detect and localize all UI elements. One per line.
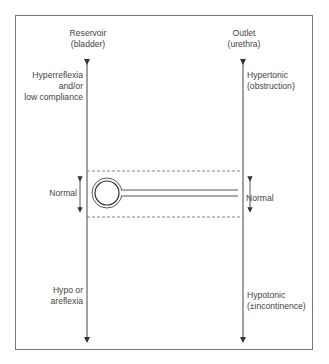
outlet-bottom-label: Hypotonic (±incontinence) <box>247 290 306 312</box>
outlet-top-label: Hypertonic (obstruction) <box>247 70 295 92</box>
bladder-urethra-icon <box>92 178 238 208</box>
reservoir-normal-label: Normal <box>30 188 77 199</box>
outlet-title: Outlet (urethra) <box>222 28 266 50</box>
reservoir-top-label: Hyperreflexia and/or low compliance <box>16 70 83 103</box>
reservoir-bottom-label: Hypo or areflexia <box>30 285 83 307</box>
outlet-normal-label: Normal <box>246 193 274 204</box>
reservoir-title: Reservoir (bladder) <box>62 28 114 50</box>
